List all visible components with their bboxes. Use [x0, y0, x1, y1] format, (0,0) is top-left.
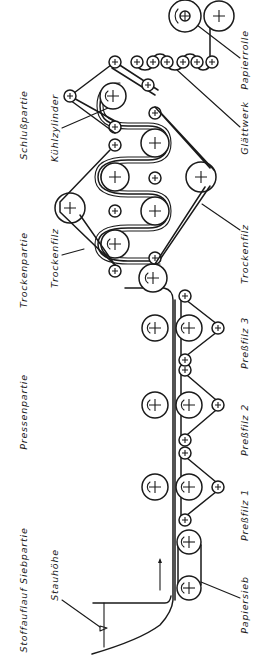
headbox: [93, 558, 171, 647]
section-label-press: Pressenpartie: [18, 374, 29, 450]
paper-web: [92, 288, 175, 654]
label-paper-roll: Papierrolle: [239, 30, 250, 90]
label-press-felt-3: Preßfilz 3: [239, 317, 250, 369]
label-dryer-felt-top: Trockenfilz: [49, 228, 60, 288]
label-head-height: Stauhöhe: [49, 549, 60, 601]
label-press-felt-2: Preßfilz 2: [239, 404, 250, 456]
label-cooling-cylinder: Kühlzylinder: [49, 94, 60, 162]
label-wire: Papiersieb: [239, 576, 250, 633]
section-label-headbox-wire: Stoffauflauf Siebpartie: [18, 527, 29, 652]
label-calender: Glättwerk: [239, 101, 250, 155]
section-label-dryer: Trockenpartie: [18, 232, 29, 308]
label-press-felt-1: Preßfilz 1: [239, 489, 250, 541]
wire-section: [177, 530, 201, 600]
section-label-finishing: Schlußpartie: [18, 90, 29, 160]
label-dryer-felt-bottom: Trockenfilz: [239, 224, 250, 284]
dryer-section: [55, 83, 216, 292]
paper-machine-diagram: Schlußpartie Trockenpartie Pressenpartie…: [0, 0, 270, 667]
